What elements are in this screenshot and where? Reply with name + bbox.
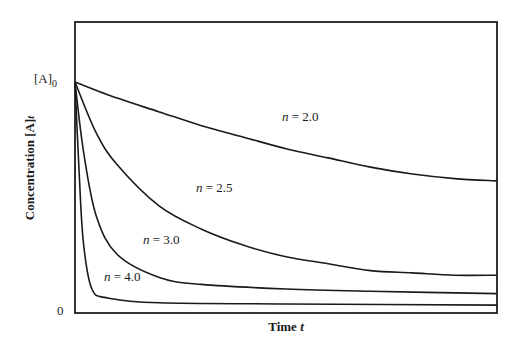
chart-plot: [0, 0, 525, 337]
y-tick-initial: [A]0: [34, 71, 57, 89]
x-axis-label: Time t: [268, 319, 304, 335]
curve-n-2-0: [75, 82, 497, 181]
y-tick-zero: 0: [57, 303, 64, 319]
curve-label-n-4-0: n = 4.0: [104, 269, 141, 285]
curve-label-n-2-5: n = 2.5: [196, 180, 233, 196]
curve-label-n-2-0: n = 2.0: [282, 109, 319, 125]
curve-label-n-3-0: n = 3.0: [143, 232, 180, 248]
y-axis-label: Concentration [A]t: [22, 116, 38, 220]
